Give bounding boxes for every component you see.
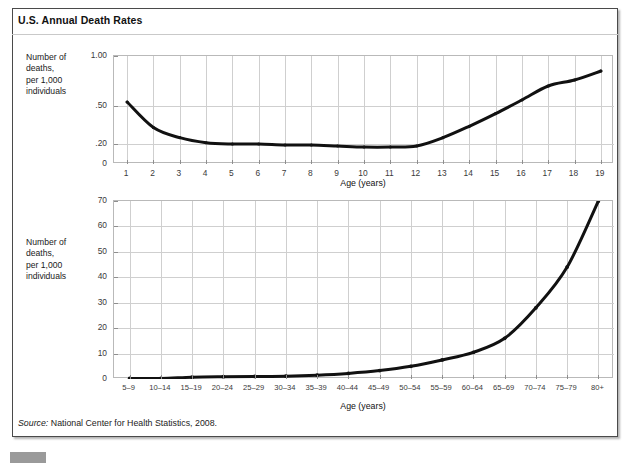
bottom-chart-x-tick-label: 5–9 bbox=[122, 383, 135, 392]
bottom-chart-y-tick-label: 40 bbox=[69, 271, 107, 281]
top-chart-x-tick-label: 7 bbox=[282, 168, 287, 178]
source-note: Source: National Center for Health Stati… bbox=[18, 418, 217, 428]
top-chart-x-tick-label: 12 bbox=[411, 168, 420, 178]
top-chart-x-tick-label: 2 bbox=[150, 168, 155, 178]
top-chart-plot-area bbox=[113, 55, 613, 163]
bottom-chart-x-tick-label: 25–29 bbox=[243, 383, 264, 392]
top-chart-x-tick-label: 9 bbox=[334, 168, 339, 178]
source-label: Source: bbox=[18, 418, 48, 428]
bottom-chart-x-tick-label: 30–34 bbox=[274, 383, 295, 392]
page-title: U.S. Annual Death Rates bbox=[18, 14, 142, 26]
bottom-chart-x-tick-label: 80+ bbox=[591, 383, 604, 392]
top-chart: 0.20.501.0012345678910111213141516171819 bbox=[113, 55, 613, 163]
bottom-chart-x-tick-label: 10–14 bbox=[149, 383, 170, 392]
bottom-chart-x-axis-title: Age (years) bbox=[340, 401, 385, 411]
figure-page: U.S. Annual Death Rates Number of deaths… bbox=[0, 0, 636, 466]
bottom-chart-x-tick-label: 15–19 bbox=[181, 383, 202, 392]
bottom-chart-plot-area bbox=[113, 200, 613, 378]
top-chart-x-tick-label: 13 bbox=[437, 168, 446, 178]
bottom-chart-y-tick-label: 20 bbox=[69, 322, 107, 332]
top-chart-x-tick-label: 19 bbox=[595, 168, 604, 178]
bottom-chart-x-tick-label: 35–39 bbox=[306, 383, 327, 392]
top-chart-y-tick-label: .50 bbox=[69, 100, 107, 110]
bottom-chart-y-tick-label: 30 bbox=[69, 297, 107, 307]
bottom-chart: 0102030405060705–910–1415–1920–2425–2930… bbox=[113, 200, 613, 378]
title-divider bbox=[12, 34, 618, 35]
top-chart-y-tick-label: .20 bbox=[69, 138, 107, 148]
top-chart-x-tick-label: 3 bbox=[176, 168, 181, 178]
bottom-chart-x-tick-label: 55–59 bbox=[431, 383, 452, 392]
top-chart-x-tick-label: 4 bbox=[203, 168, 208, 178]
top-chart-x-tick-label: 14 bbox=[464, 168, 473, 178]
top-chart-y-tick-label: 0 bbox=[69, 158, 107, 168]
bottom-chart-x-tick-label: 75–79 bbox=[556, 383, 577, 392]
bottom-chart-y-tick-label: 60 bbox=[69, 220, 107, 230]
bottom-chart-x-tick-label: 50–54 bbox=[399, 383, 420, 392]
source-text: National Center for Health Statistics, 2… bbox=[48, 418, 217, 428]
top-chart-x-tick-label: 5 bbox=[229, 168, 234, 178]
top-chart-x-tick-label: 1 bbox=[124, 168, 129, 178]
top-chart-x-tick-label: 17 bbox=[543, 168, 552, 178]
bottom-chart-y-tick-label: 0 bbox=[69, 373, 107, 383]
top-chart-x-tick-label: 6 bbox=[255, 168, 260, 178]
top-chart-x-tick-label: 10 bbox=[358, 168, 367, 178]
corner-marker bbox=[10, 452, 46, 463]
top-chart-y-tick-label: 1.00 bbox=[69, 50, 107, 60]
top-chart-x-tick-label: 15 bbox=[490, 168, 499, 178]
bottom-chart-y-tick-label: 70 bbox=[69, 195, 107, 205]
bottom-chart-y-tick-label: 10 bbox=[69, 348, 107, 358]
top-chart-x-tick-label: 11 bbox=[385, 168, 394, 178]
top-chart-x-tick-label: 16 bbox=[516, 168, 525, 178]
top-chart-x-axis-title: Age (years) bbox=[340, 178, 385, 188]
bottom-chart-x-tick-label: 45–49 bbox=[368, 383, 389, 392]
bottom-chart-x-tick-label: 65–69 bbox=[493, 383, 514, 392]
bottom-chart-y-tick-label: 50 bbox=[69, 246, 107, 256]
bottom-chart-x-tick-label: 60–64 bbox=[462, 383, 483, 392]
top-chart-x-tick-label: 8 bbox=[308, 168, 313, 178]
bottom-chart-x-tick-label: 70–74 bbox=[524, 383, 545, 392]
bottom-chart-x-tick-label: 20–24 bbox=[212, 383, 233, 392]
top-chart-x-tick-label: 18 bbox=[569, 168, 578, 178]
bottom-chart-x-tick-label: 40–44 bbox=[337, 383, 358, 392]
